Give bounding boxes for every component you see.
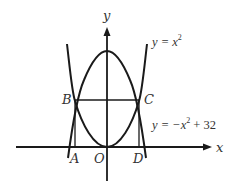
point-b-label: B	[61, 92, 72, 107]
downward-parabola-equation: y = −x2 + 32	[150, 116, 216, 132]
eq2-rhs: + 32	[190, 118, 216, 132]
upward-parabola-equation: y = x2	[150, 33, 182, 49]
x-axis-arrow-icon	[203, 144, 212, 151]
y-axis-label: y	[102, 8, 111, 23]
point-c-label: C	[144, 92, 154, 107]
eq1-exponent: 2	[178, 33, 182, 42]
parabola-diagram: y x O B C A D y = x2 y = −x2 + 32	[0, 0, 233, 190]
x-axis-label: x	[216, 140, 224, 155]
point-d-label: D	[132, 151, 144, 166]
eq1-lhs: y = x	[150, 35, 178, 49]
origin-label: O	[94, 151, 105, 166]
y-axis-arrow-icon	[104, 27, 111, 36]
eq2-lhs: y = −x	[150, 118, 187, 132]
point-a-label: A	[69, 151, 79, 166]
